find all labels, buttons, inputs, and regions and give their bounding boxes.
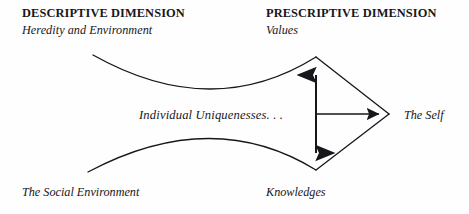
social-environment-label: The Social Environment	[22, 186, 139, 200]
figure-container: DESCRIPTIVE DIMENSION Heredity and Envir…	[0, 0, 469, 214]
values-label: Values	[266, 24, 298, 38]
prescriptive-dimension-heading: PRESCRIPTIVE DIMENSION	[266, 7, 437, 21]
lower-curve	[88, 138, 316, 172]
diamond-upper-right-edge	[316, 57, 389, 114]
upper-curve	[93, 55, 316, 89]
descriptive-dimension-sublabel: Heredity and Environment	[22, 24, 152, 38]
diamond-lower-right-edge	[316, 114, 389, 170]
the-self-label: The Self	[404, 109, 444, 123]
knowledges-label: Knowledges	[266, 186, 326, 200]
individual-uniquenesses-label: Individual Uniquenesses. . .	[139, 108, 283, 122]
descriptive-dimension-heading: DESCRIPTIVE DIMENSION	[22, 7, 185, 21]
